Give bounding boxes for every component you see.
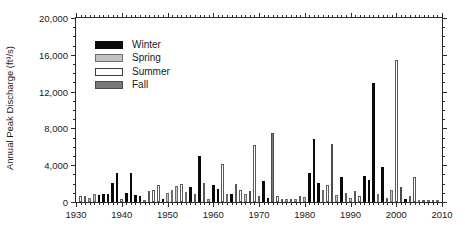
- legend-swatch-spring: [95, 54, 123, 62]
- x-tick-2001: [401, 202, 402, 205]
- x-tick-1980: [305, 202, 306, 207]
- x-tick-1963: [227, 202, 228, 205]
- y-tick-19000: [73, 27, 76, 28]
- x-tick-1955: [190, 202, 191, 205]
- x-tick-1973: [273, 202, 274, 205]
- bar-1950-spring: [166, 193, 169, 202]
- y-tick-right-14000: [442, 73, 445, 74]
- x-tick-1971: [264, 202, 265, 205]
- x-tick-top-1979: [300, 15, 301, 18]
- x-tick-top-2010: [442, 13, 443, 18]
- y-tick-12000: [71, 92, 76, 93]
- x-tick-2006: [424, 202, 425, 205]
- x-tick-2000: [396, 202, 397, 207]
- y-tick-right-13000: [442, 82, 445, 83]
- x-tick-1931: [81, 202, 82, 205]
- x-tick-top-1995: [373, 15, 374, 18]
- x-tick-label-1980: 1980: [294, 209, 315, 220]
- x-tick-top-1984: [323, 15, 324, 18]
- y-tick-label-8000: 8,000: [44, 123, 68, 134]
- x-tick-top-1933: [90, 15, 91, 18]
- y-tick-right-9000: [442, 119, 445, 120]
- x-tick-top-1953: [181, 15, 182, 18]
- y-tick-13000: [73, 82, 76, 83]
- x-tick-top-1965: [236, 15, 237, 18]
- bar-1967-spring: [244, 194, 247, 202]
- bar-1937-winter: [107, 194, 110, 202]
- x-tick-top-2003: [410, 15, 411, 18]
- x-tick-1950: [168, 202, 169, 207]
- x-tick-1961: [218, 202, 219, 205]
- x-tick-2008: [433, 202, 434, 205]
- x-tick-1975: [282, 202, 283, 205]
- x-tick-top-1982: [314, 15, 315, 18]
- x-tick-1999: [392, 202, 393, 205]
- x-tick-1939: [117, 202, 118, 205]
- x-tick-top-2001: [401, 15, 402, 18]
- y-tick-1000: [73, 193, 76, 194]
- x-tick-top-2004: [415, 15, 416, 18]
- x-tick-1959: [209, 202, 210, 205]
- bar-1996-spring: [377, 194, 380, 202]
- x-tick-1937: [108, 202, 109, 205]
- x-tick-top-2000: [396, 13, 397, 18]
- bar-1984-spring: [322, 190, 325, 202]
- y-tick-7000: [73, 138, 76, 139]
- x-tick-1953: [181, 202, 182, 205]
- y-tick-right-6000: [442, 147, 445, 148]
- y-tick-6000: [73, 147, 76, 148]
- x-tick-top-1942: [131, 15, 132, 18]
- x-tick-top-2002: [405, 15, 406, 18]
- y-tick-9000: [73, 119, 76, 120]
- bar-1968-fall: [249, 191, 252, 203]
- bar-1961-winter: [217, 189, 220, 202]
- x-tick-1970: [259, 202, 260, 207]
- bar-1963-spring: [226, 194, 229, 202]
- y-tick-11000: [73, 101, 76, 102]
- bar-1935-winter: [98, 195, 101, 202]
- x-tick-top-1950: [168, 13, 169, 18]
- x-tick-1936: [103, 202, 104, 205]
- bar-1938-winter: [111, 183, 114, 202]
- y-tick-label-12000: 12,000: [39, 86, 68, 97]
- x-tick-top-1959: [209, 15, 210, 18]
- x-tick-top-1971: [264, 15, 265, 18]
- x-tick-top-1938: [113, 15, 114, 18]
- x-tick-1986: [332, 202, 333, 205]
- bar-1951-spring: [171, 190, 174, 202]
- x-tick-top-1998: [387, 15, 388, 18]
- bar-1986-fall: [331, 144, 334, 202]
- x-tick-label-1990: 1990: [340, 209, 361, 220]
- y-tick-10000: [73, 110, 76, 111]
- x-tick-label-1930: 1930: [65, 209, 86, 220]
- x-tick-top-1970: [259, 13, 260, 18]
- y-tick-20000: [71, 18, 76, 19]
- x-tick-1997: [383, 202, 384, 205]
- x-tick-1985: [328, 202, 329, 205]
- bar-2000-summer: [395, 60, 398, 202]
- y-tick-right-8000: [442, 128, 447, 129]
- x-tick-top-1945: [145, 15, 146, 18]
- x-tick-label-1970: 1970: [248, 209, 269, 220]
- y-tick-label-16000: 16,000: [39, 49, 68, 60]
- bar-1958-summer: [203, 183, 206, 202]
- legend-swatch-summer: [95, 68, 123, 76]
- x-tick-top-1990: [351, 13, 352, 18]
- bar-1965-summer: [235, 184, 238, 202]
- y-tick-17000: [73, 46, 76, 47]
- x-tick-top-2005: [419, 15, 420, 18]
- x-tick-top-1930: [76, 13, 77, 18]
- x-tick-top-1932: [85, 15, 86, 18]
- x-tick-1976: [286, 202, 287, 205]
- x-tick-label-1950: 1950: [157, 209, 178, 220]
- x-tick-1944: [140, 202, 141, 205]
- x-tick-top-1997: [383, 15, 384, 18]
- bar-1948-summer: [157, 185, 160, 202]
- x-tick-top-2006: [424, 15, 425, 18]
- x-tick-2005: [419, 202, 420, 205]
- legend-label-winter: Winter: [132, 39, 161, 51]
- x-tick-1935: [99, 202, 100, 205]
- x-tick-1981: [309, 202, 310, 205]
- x-tick-1930: [76, 202, 77, 207]
- x-tick-top-1936: [103, 15, 104, 18]
